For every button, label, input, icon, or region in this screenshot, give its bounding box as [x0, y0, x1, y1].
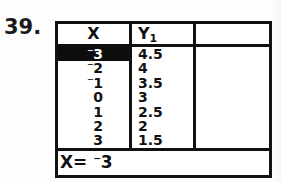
table-row[interactable]: 03	[58, 90, 269, 104]
cell-y1[interactable]: 3.5	[132, 76, 193, 90]
cell-x[interactable]: 1	[58, 105, 129, 119]
table-row[interactable]: 12.5	[58, 105, 269, 119]
cell-x[interactable]: 3	[58, 133, 129, 147]
cell-y1[interactable]: 1.5	[132, 133, 193, 147]
column-header-empty[interactable]	[196, 24, 269, 44]
cell-y1[interactable]: 2	[132, 119, 193, 133]
status-bar-negative-sign: ⁻	[93, 150, 100, 173]
table-row[interactable]: 31.5	[58, 133, 269, 147]
table-row[interactable]: 22	[58, 119, 269, 133]
cell-y1[interactable]: 3	[132, 90, 193, 104]
negative-sign: ⁻	[87, 75, 93, 89]
column-header-x[interactable]: X	[58, 24, 129, 44]
calculator-screen-inner: X Y1 ⁻34.5⁻24⁻13.50312.52231.5 X=⁻3	[58, 24, 269, 175]
calculator-screen: X Y1 ⁻34.5⁻24⁻13.50312.52231.5 X=⁻3	[55, 21, 272, 178]
scanned-page-background: 39. X Y1 ⁻34.5⁻24⁻13.50312.52231.5 X=⁻3	[0, 0, 281, 182]
problem-number: 39.	[4, 17, 41, 38]
status-bar-prefix: X=	[60, 152, 87, 172]
cell-x[interactable]: ⁻3	[58, 47, 129, 61]
status-bar-entry-line[interactable]: X=⁻3	[58, 151, 269, 175]
cell-x[interactable]: 0	[58, 90, 129, 104]
cell-y1[interactable]: 4.5	[132, 47, 193, 61]
table-header-row: X Y1	[58, 24, 269, 44]
negative-sign: ⁻	[87, 46, 93, 60]
scan-edge-shading	[272, 0, 281, 182]
table-row[interactable]: ⁻13.5	[58, 76, 269, 90]
negative-sign: ⁻	[87, 60, 93, 74]
cell-x[interactable]: ⁻2	[58, 61, 129, 75]
status-bar-value: 3	[101, 152, 113, 172]
cell-y1[interactable]: 2.5	[132, 105, 193, 119]
cell-x-value: 3	[93, 132, 103, 148]
column-header-y1-base: Y	[138, 24, 150, 43]
cell-x[interactable]: ⁻1	[58, 76, 129, 90]
cell-y1[interactable]: 4	[132, 61, 193, 75]
cell-x[interactable]: 2	[58, 119, 129, 133]
table-body: ⁻34.5⁻24⁻13.50312.52231.5	[58, 47, 269, 148]
column-header-y1[interactable]: Y1	[132, 24, 193, 44]
